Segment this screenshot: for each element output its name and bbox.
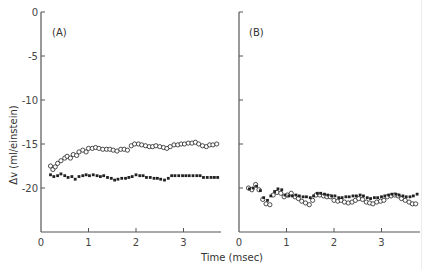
y-tick-label: -20 <box>22 183 38 194</box>
data-point-open <box>382 198 386 202</box>
data-point-filled <box>295 194 298 197</box>
data-point-filled <box>391 193 394 196</box>
data-point-filled <box>262 196 265 199</box>
data-point-filled <box>56 174 59 177</box>
data-point-filled <box>326 194 329 197</box>
data-point-filled <box>156 177 159 180</box>
data-point-filled <box>177 174 180 177</box>
series-filled-circles <box>49 173 219 182</box>
data-point-filled <box>106 176 109 179</box>
data-point-filled <box>341 196 344 199</box>
data-point-filled <box>174 174 177 177</box>
data-point-filled <box>145 176 148 179</box>
series-open-circles <box>48 140 218 171</box>
data-point-filled <box>149 176 152 179</box>
data-point-filled <box>284 194 287 197</box>
data-point-filled <box>110 177 113 180</box>
data-point-open <box>307 203 311 207</box>
data-point-filled <box>373 196 376 199</box>
data-point-filled <box>124 177 127 180</box>
data-point-filled <box>184 174 187 177</box>
y-tick-label: 0 <box>32 7 38 18</box>
panel-label: (A) <box>52 27 67 38</box>
data-point-filled <box>412 195 415 198</box>
data-point-filled <box>266 199 269 202</box>
data-point-filled <box>416 193 419 196</box>
data-point-filled <box>70 175 73 178</box>
data-point-filled <box>81 174 84 177</box>
data-point-filled <box>376 196 379 199</box>
data-point-filled <box>359 194 362 197</box>
data-point-open <box>279 191 283 195</box>
data-point-filled <box>316 192 319 195</box>
figure: 0-5-10-15-200123(A) 0123(B) Δv (ml/einst… <box>0 0 427 269</box>
data-point-filled <box>206 176 209 179</box>
data-point-filled <box>344 195 347 198</box>
y-tick-label: -5 <box>28 51 38 62</box>
data-point-filled <box>113 179 116 182</box>
data-point-filled <box>96 174 99 177</box>
x-tick-label: 1 <box>283 237 289 248</box>
data-point-filled <box>135 173 138 176</box>
data-point-filled <box>366 196 369 199</box>
data-point-filled <box>170 174 173 177</box>
x-tick-label: 0 <box>38 237 44 248</box>
x-tick-label: 3 <box>378 237 384 248</box>
data-point-open <box>268 203 272 207</box>
data-point-filled <box>334 195 337 198</box>
data-point-filled <box>102 174 105 177</box>
data-point-filled <box>63 174 66 177</box>
data-point-filled <box>398 194 401 197</box>
data-point-open <box>59 159 63 163</box>
data-point-filled <box>312 195 315 198</box>
data-point-filled <box>309 196 312 199</box>
data-point-filled <box>85 173 88 176</box>
data-point-filled <box>88 174 91 177</box>
data-point-filled <box>131 175 134 178</box>
data-point-filled <box>280 188 283 191</box>
data-point-filled <box>291 195 294 198</box>
data-point-filled <box>142 174 145 177</box>
data-point-filled <box>117 178 120 181</box>
data-point-filled <box>199 174 202 177</box>
data-point-filled <box>49 173 52 176</box>
data-point-filled <box>330 195 333 198</box>
data-point-filled <box>352 195 355 198</box>
data-point-filled <box>387 194 390 197</box>
data-point-filled <box>383 195 386 198</box>
data-point-filled <box>92 173 95 176</box>
data-point-filled <box>248 187 251 190</box>
data-point-filled <box>99 175 102 178</box>
data-point-filled <box>298 195 301 198</box>
x-axis-title: Time (msec) <box>200 252 263 263</box>
data-point-filled <box>287 195 290 198</box>
x-tick-label: 1 <box>85 237 91 248</box>
y-tick-label: -15 <box>22 139 38 150</box>
data-point-filled <box>269 195 272 198</box>
y-axis-title: Δv (ml/einstein) <box>8 105 19 184</box>
panel-b: 0123(B) <box>236 12 420 248</box>
data-point-filled <box>213 176 216 179</box>
data-point-filled <box>74 178 77 181</box>
data-point-filled <box>163 179 166 182</box>
data-point-filled <box>348 195 351 198</box>
data-point-filled <box>255 185 258 188</box>
data-point-filled <box>67 176 70 179</box>
data-point-filled <box>153 177 156 180</box>
data-point-filled <box>210 176 213 179</box>
data-point-open <box>360 197 364 201</box>
data-point-filled <box>302 195 305 198</box>
data-point-filled <box>277 187 280 190</box>
panel-label: (B) <box>249 27 264 38</box>
data-point-filled <box>362 195 365 198</box>
x-tick-label: 0 <box>236 237 242 248</box>
data-point-filled <box>409 195 412 198</box>
data-point-open <box>125 148 129 152</box>
data-point-filled <box>273 190 276 193</box>
x-tick-label: 2 <box>133 237 139 248</box>
data-point-filled <box>192 174 195 177</box>
data-point-filled <box>319 192 322 195</box>
x-tick-label: 2 <box>331 237 337 248</box>
panel-a: 0-5-10-15-200123(A) <box>22 7 221 249</box>
data-point-filled <box>305 195 308 198</box>
